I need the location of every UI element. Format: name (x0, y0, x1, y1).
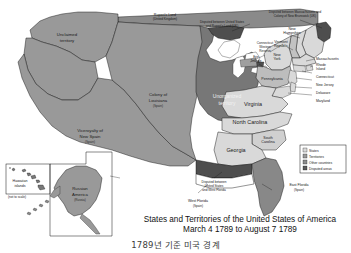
label-unorganized-2: territory (219, 100, 236, 106)
label-maryland: Maryland (316, 99, 330, 103)
legend-label-other-countries: Other countries (309, 161, 332, 165)
label-louisiana-2: Louisiana (149, 98, 168, 103)
historical-map-figure: Unclaimed territory Colony of Louisiana … (0, 0, 351, 237)
label-rhode-island-2: Island (316, 67, 325, 71)
label-new-spain-owner: (Spain) (85, 140, 95, 144)
label-new-york-2: York (273, 57, 280, 61)
label-dispute-mass-nb-2: Colony of New Brunswick (UK) (274, 14, 316, 18)
korean-caption: 1789년 기준 미국 경계 (0, 238, 351, 250)
legend-label-disputed: Disputed areas (309, 167, 332, 171)
label-new-jersey: New Jersey (316, 83, 334, 87)
label-new-spain-2: New Spain (80, 134, 101, 139)
label-west-florida: West Florida (188, 199, 208, 203)
hawaii-small-isle (9, 167, 11, 169)
label-virginia: Virginia (244, 101, 262, 107)
label-hawaii-1: Hawaiian (13, 179, 28, 183)
label-connecticut: Connecticut (316, 75, 334, 79)
legend-swatch-states (303, 148, 307, 152)
label-hawaii-2: islands (14, 184, 25, 188)
label-russian-america-2: America (72, 192, 88, 197)
legend-item-territories: Territories (303, 154, 324, 159)
map-title-line1: States and Territories of the United Sta… (144, 215, 337, 224)
label-massachusetts: Massachusetts (316, 57, 339, 61)
label-georgia: Georgia (226, 147, 245, 153)
label-east-florida: East Florida (289, 183, 308, 187)
label-unorganized-1: Unorganized (213, 93, 242, 99)
legend-label-states: States (309, 149, 319, 153)
label-north-carolina: North Carolina (233, 119, 268, 125)
label-dispute-wf-3: and West Florida (202, 188, 226, 192)
label-unclaimed-1: Unclaimed (57, 32, 78, 37)
label-erie-triangle-2: Triangle (250, 59, 261, 63)
map-legend: States Territories Other countries Dispu… (300, 145, 346, 173)
label-ct-reserve-3: Reserve (259, 49, 271, 53)
label-delaware: Delaware (316, 91, 330, 95)
label-new-spain-1: Viceroyalty of (77, 128, 104, 133)
label-pennsylvania: Pennsylvania (261, 77, 282, 81)
map-canvas: Unclaimed territory Colony of Louisiana … (0, 0, 351, 237)
label-south-carolina-2: Carolina (261, 140, 274, 144)
legend-swatch-territories (303, 154, 307, 158)
legend-item-states: States (303, 148, 319, 153)
map-page: Unclaimed territory Colony of Louisiana … (0, 0, 351, 253)
label-ruperts-land-owner: (United Kingdom) (153, 17, 177, 21)
label-russian-america-1: Russian (72, 186, 88, 191)
legend-swatch-disputed (303, 166, 307, 170)
label-louisiana-owner: (Spain) (153, 104, 163, 108)
label-vermont-2: Republic (274, 44, 288, 48)
label-russian-america-owner: (Russia) (74, 198, 86, 202)
label-unclaimed-2: territory (60, 38, 75, 43)
map-title-line2: March 4 1789 to August 7 1789 (183, 225, 297, 234)
label-dispute-us-ruperts-2: and Rupert's Land (UK) (206, 24, 238, 28)
label-louisiana-1: Colony of (149, 92, 168, 97)
label-hawaii-note: (not to scale) (8, 195, 26, 199)
label-west-florida-owner: (Spain) (193, 204, 203, 208)
rhode-island-shape (306, 65, 313, 71)
label-east-florida-owner: (Spain) (294, 188, 304, 192)
legend-swatch-other-countries (303, 160, 307, 164)
connecticut-shape (293, 65, 306, 72)
label-new-hampshire-2: Hampshire (283, 31, 300, 35)
legend-label-territories: Territories (309, 155, 324, 159)
